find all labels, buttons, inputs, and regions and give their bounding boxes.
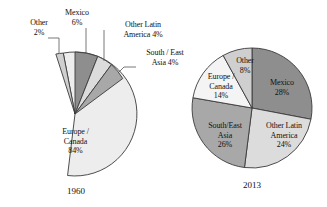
year-label-1960: 1960 [58,186,94,196]
label-2013-europe-canada-line1: Europe / [198,72,244,82]
two-pie-chart-figure: Other 2% Mexico 6% Other Latin America 4… [0,0,327,207]
label-2013-other-latin-america: Other Latin America 24% [257,121,311,150]
label-1960-mexico: Mexico 6% [52,8,102,27]
label-2013-other-line1: Other [228,56,262,66]
label-1960-south-east-asia: South / East Asia 4% [130,48,200,67]
label-1960-other-line2: 2% [18,28,60,38]
label-2013-south-east-asia-line3: 26% [198,140,252,150]
label-1960-south-east-asia-line1: South / East [130,48,200,58]
pie-1960 [56,52,137,176]
label-1960-mexico-line1: Mexico [52,8,102,18]
label-2013-europe-canada-line3: 14% [198,91,244,101]
label-2013-mexico: Mexico 28% [258,78,306,97]
label-1960-south-east-asia-line2: Asia 4% [130,58,200,68]
label-2013-europe-canada: Europe / Canada 14% [198,72,244,101]
label-2013-south-east-asia: South/East Asia 26% [198,121,252,150]
label-2013-europe-canada-line2: Canada [198,82,244,92]
label-2013-other-latin-line3: 24% [257,140,311,150]
label-1960-europe-canada-line2: Canada [48,137,103,147]
label-2013-other-latin-line2: America [257,131,311,141]
label-2013-other-latin-line1: Other Latin [257,121,311,131]
label-1960-europe-canada: Europe / Canada 84% [48,127,103,156]
label-1960-other-latin-line1: Other Latin [110,20,176,30]
label-1960-europe-canada-line3: 84% [48,146,103,156]
leader-line-south-east-asia [119,67,136,72]
label-2013-south-east-asia-line1: South/East [198,121,252,131]
label-2013-mexico-line2: 28% [258,88,306,98]
label-2013-mexico-line1: Mexico [258,78,306,88]
label-2013-south-east-asia-line2: Asia [198,131,252,141]
year-label-2013: 2013 [234,180,270,190]
label-1960-europe-canada-line1: Europe / [48,127,103,137]
label-1960-other-latin-america: Other Latin America 4% [110,20,176,39]
leader-line-other [48,38,59,53]
label-1960-other-latin-line2: America 4% [110,30,176,40]
label-1960-mexico-line2: 6% [52,18,102,28]
